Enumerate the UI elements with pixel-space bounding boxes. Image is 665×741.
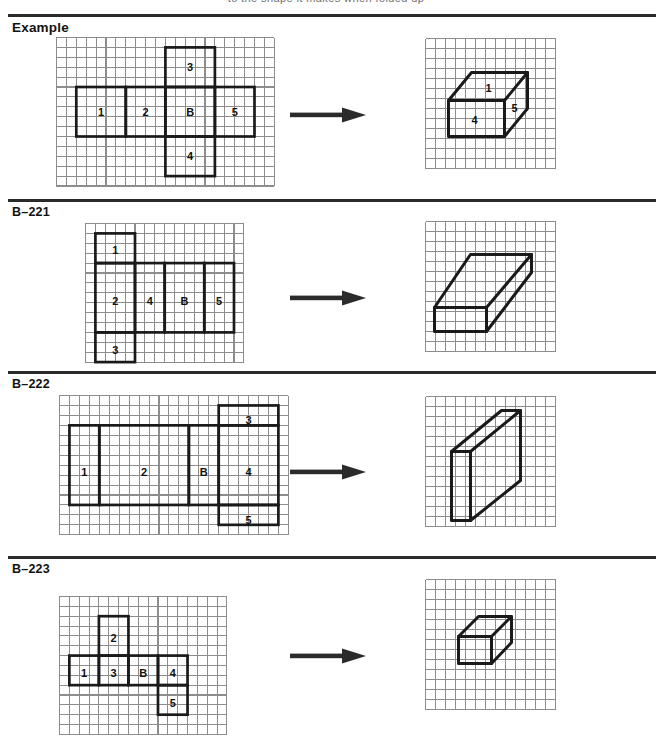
net-face-label-5: 5 — [170, 697, 176, 709]
net-face-label-5: 5 — [232, 106, 238, 118]
net-face-label-4: 4 — [245, 466, 252, 478]
net-face-label-5: 5 — [245, 514, 251, 526]
net-face-label-2: 2 — [143, 106, 149, 118]
folded-solid-grid — [424, 220, 557, 353]
row-label-B222: B–222 — [12, 377, 50, 391]
arrow-shaft — [290, 654, 348, 659]
page-header-text: to the shape it makes when folded up — [96, 0, 556, 4]
folded-solid-grid — [424, 578, 557, 711]
row-label-B223: B–223 — [12, 562, 50, 576]
worksheet-page: to the shape it makes when folded up Exa… — [0, 0, 665, 741]
arrow-head — [342, 290, 366, 305]
net-face-label-3: 3 — [245, 414, 251, 426]
solid-face-label-1: 1 — [485, 82, 491, 94]
net-face-label-1: 1 — [112, 244, 118, 256]
net-face-label-2: 2 — [112, 295, 118, 307]
solid-edge-path — [435, 255, 532, 332]
solid-face-label-5: 5 — [511, 102, 517, 114]
right-arrow-icon — [290, 105, 368, 125]
net-face-label-B: B — [200, 466, 208, 478]
net-face-label-B: B — [181, 295, 189, 307]
row-separator — [8, 371, 656, 374]
row-label-B221: B–221 — [12, 205, 50, 219]
arrow-head — [342, 648, 366, 663]
net-face-label-4: 4 — [147, 295, 154, 307]
arrow-shaft — [290, 296, 348, 301]
net-face-label-1: 1 — [81, 667, 87, 679]
page-header-fragment: to the shape it makes when folded up — [96, 0, 556, 4]
unfolded-net-grid: 13B425 — [58, 595, 228, 736]
right-arrow-icon — [290, 646, 368, 666]
net-face-label-2: 2 — [141, 466, 147, 478]
arrow-shaft — [290, 470, 348, 475]
net-face-label-4: 4 — [187, 150, 194, 162]
net-face-label-5: 5 — [216, 295, 222, 307]
net-face-label-4: 4 — [170, 667, 177, 679]
arrow-head — [342, 464, 366, 479]
unfolded-net-grid: 12B534 — [55, 36, 276, 188]
folded-solid-grid — [424, 395, 557, 528]
unfolded-net-grid: 12B435 — [58, 394, 290, 536]
arrow-shaft — [290, 113, 348, 118]
right-arrow-icon — [290, 288, 368, 308]
right-arrow-icon — [290, 462, 368, 482]
row-separator — [8, 556, 656, 559]
net-face-label-B: B — [186, 106, 194, 118]
net-face-label-2: 2 — [111, 632, 117, 644]
row-label-Example: Example — [12, 20, 69, 35]
row-separator — [8, 199, 656, 202]
net-face-label-1: 1 — [81, 466, 87, 478]
net-face-label-3: 3 — [112, 344, 118, 356]
unfolded-net-grid: 1234B5 — [84, 222, 245, 364]
net-face-label-3: 3 — [111, 667, 117, 679]
net-face-label-B: B — [139, 667, 147, 679]
net-face-label-3: 3 — [187, 61, 193, 73]
solid-face-label-4: 4 — [471, 114, 478, 126]
net-face-label-1: 1 — [98, 106, 104, 118]
row-separator — [8, 14, 656, 17]
folded-solid-grid: 145 — [424, 37, 557, 170]
arrow-head — [342, 107, 366, 122]
